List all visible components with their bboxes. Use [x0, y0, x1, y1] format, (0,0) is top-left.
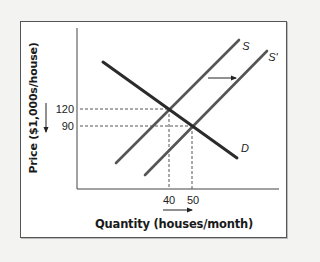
supply-curve-s-prime [145, 51, 267, 175]
x-tick-50: 50 [187, 194, 199, 206]
x-tick-40: 40 [163, 194, 175, 206]
y-tick-90: 90 [62, 120, 74, 132]
curve-label-s-prime: S' [268, 51, 277, 63]
curve-label-d: D [241, 142, 249, 154]
x-axis-label: Quantity (houses/month) [95, 217, 253, 231]
demand-curve [103, 62, 237, 158]
y-axis-label: Price ($1,000s/house) [27, 42, 40, 173]
y-tick-120: 120 [56, 103, 74, 115]
curve-label-s: S [242, 40, 249, 52]
